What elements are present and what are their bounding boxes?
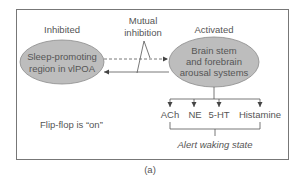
- sleep-node-line-2: region in vlPOA: [29, 63, 96, 74]
- neurotransmitter-histamine: Histamine: [239, 109, 281, 120]
- sleep-node-line-1: Sleep-promoting: [27, 51, 97, 62]
- arousal-node-line-2: and forebrain: [186, 56, 242, 67]
- inhibited-label: Inhibited: [44, 24, 80, 35]
- mutual-inhibition-label-line-1: Mutual: [129, 15, 158, 26]
- flip-flop-status-text: Flip-flop is “on”: [40, 119, 103, 130]
- mutual-inhibition-label-line-2: inhibition: [124, 27, 162, 38]
- arousal-node-line-1: Brain stem: [191, 45, 236, 56]
- panel-label: (a): [144, 164, 156, 175]
- neurotransmitter-ne: NE: [188, 109, 201, 120]
- neurotransmitter-5ht: 5-HT: [208, 109, 229, 120]
- neurotransmitter-ach: ACh: [161, 109, 179, 120]
- arousal-node-line-3: arousal systems: [180, 67, 249, 78]
- activated-label: Activated: [194, 24, 233, 35]
- sleep-promoting-region-node: [20, 40, 104, 84]
- alert-waking-state-label: Alert waking state: [177, 139, 253, 150]
- flip-flop-diagram: Inhibited Activated Mutual inhibition Sl…: [0, 0, 302, 177]
